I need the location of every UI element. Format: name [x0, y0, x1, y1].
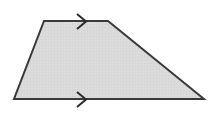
figure-canvas: Trapezoid with single arrow marks on the… [0, 0, 215, 113]
trapezoid-diagram [0, 0, 215, 113]
